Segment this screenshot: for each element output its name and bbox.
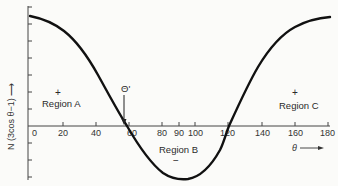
x-tick-100: 100 <box>188 128 203 138</box>
x-tick-20: 20 <box>58 128 68 138</box>
region-b-label: Region B <box>159 144 198 155</box>
x-tick-160: 160 <box>288 128 303 138</box>
theta-prime-arrow-icon <box>122 95 127 125</box>
x-tick-80: 80 <box>157 128 167 138</box>
x-axis-label: θ <box>292 143 297 153</box>
x-tick-140: 140 <box>255 128 270 138</box>
x-tick-0: 0 <box>32 128 37 138</box>
y-axis-ticks <box>28 7 32 177</box>
x-tick-40: 40 <box>91 128 101 138</box>
y-axis: N (3cos θ−1) ⟶ <box>6 6 32 180</box>
x-tick-180: 180 <box>320 128 335 138</box>
y-axis-label: N (3cos θ−1) ⟶ <box>6 83 16 150</box>
x-tick-90: 90 <box>174 128 184 138</box>
region-c-label: Region C <box>279 100 319 111</box>
region-a-sign: + <box>55 87 61 98</box>
x-axis-arrow-icon <box>300 146 324 150</box>
region-c-sign: + <box>292 87 298 98</box>
x-axis-ticks <box>63 122 328 126</box>
region-a-label: Region A <box>42 98 81 109</box>
chart-canvas: N (3cos θ−1) ⟶ 0 20 40 60 80 90 100 120 … <box>0 0 338 186</box>
theta-prime-label: Θ' <box>121 83 130 94</box>
region-b-sign: − <box>173 155 179 166</box>
